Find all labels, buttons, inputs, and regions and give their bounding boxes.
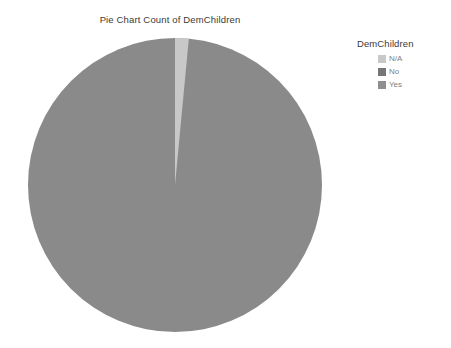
chart-title: Pie Chart Count of DemChildren — [0, 14, 340, 25]
legend-item-yes[interactable]: Yes — [378, 79, 447, 91]
legend-items: N/A No Yes — [357, 53, 447, 91]
legend-item-no[interactable]: No — [378, 66, 447, 78]
pie-plot-area — [28, 38, 322, 333]
legend-label-yes: Yes — [389, 80, 402, 90]
legend: DemChildren N/A No Yes — [357, 38, 447, 92]
legend-label-na: N/A — [389, 54, 402, 64]
legend-item-na[interactable]: N/A — [378, 53, 447, 65]
legend-swatch-yes — [378, 81, 386, 89]
legend-swatch-na — [378, 55, 386, 63]
pie-chart-figure: Pie Chart Count of DemChildren DemChildr… — [0, 0, 451, 348]
pie-svg — [28, 38, 322, 333]
legend-title: DemChildren — [357, 38, 447, 49]
legend-label-no: No — [389, 67, 399, 77]
legend-swatch-no — [378, 68, 386, 76]
